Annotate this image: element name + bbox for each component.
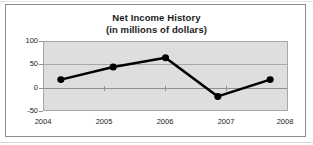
- data-point-2006: [162, 54, 169, 61]
- top-divider: [0, 1, 313, 2]
- data-point-2007: [214, 93, 221, 100]
- y-axis-label-neg50: -50: [0, 107, 38, 115]
- y-axis-tick-neg50: [39, 111, 43, 112]
- data-point-2008: [267, 76, 274, 83]
- data-point-2005: [110, 63, 117, 70]
- y-axis-label-0: 0: [0, 84, 38, 92]
- x-axis-label-2007: 2007: [206, 117, 246, 126]
- chart-figure: Net Income History (in millions of dolla…: [0, 0, 313, 145]
- series-polyline: [61, 58, 270, 97]
- x-axis-label-2008: 2008: [265, 117, 305, 126]
- y-axis-label-100: 100: [0, 37, 38, 45]
- chart-title: Net Income History: [0, 12, 313, 24]
- x-axis-label-2006: 2006: [145, 117, 185, 126]
- chart-title-block: Net Income History (in millions of dolla…: [0, 12, 313, 36]
- x-axis-label-2004: 2004: [23, 117, 63, 126]
- data-point-2004: [57, 76, 64, 83]
- plot-area: [43, 41, 288, 111]
- y-axis-label-50: 50: [0, 60, 38, 68]
- bottom-divider: [0, 142, 313, 143]
- x-axis-label-2005: 2005: [84, 117, 124, 126]
- line-series-net-income: [44, 42, 287, 110]
- chart-subtitle: (in millions of dollars): [0, 24, 313, 36]
- series-markers: [57, 54, 273, 100]
